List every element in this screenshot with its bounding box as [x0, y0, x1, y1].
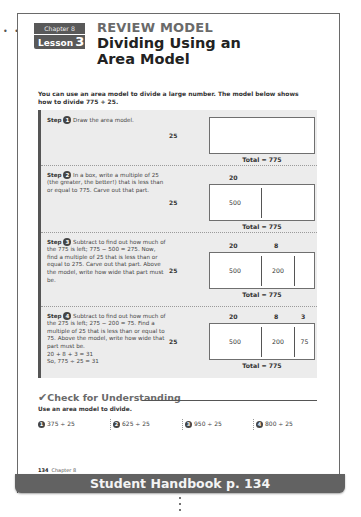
- step-1-text: Step 1 Draw the area model.: [47, 116, 167, 124]
- area-rectangle: 500 200: [209, 252, 315, 289]
- check-title-text: Check for Understanding: [47, 392, 180, 403]
- area-cell: 200: [262, 253, 294, 288]
- width-label: 3: [301, 313, 305, 320]
- step-label: Step: [47, 172, 62, 178]
- area-cell: 500: [210, 185, 260, 220]
- page-title: Dividing Using an Area Model: [97, 35, 277, 67]
- area-cell: 200: [262, 324, 294, 359]
- problem-4: 4800 ÷ 25: [256, 420, 293, 428]
- step-3-text: Step 3 Subtract to find out how much of …: [47, 238, 167, 284]
- width-label: 20: [229, 174, 238, 181]
- area-cell: 75: [295, 324, 314, 359]
- check-for-understanding-heading: ✔Check for Understanding: [38, 391, 181, 404]
- problem-number-circle: 3: [185, 421, 192, 428]
- step-3: Step 3 Subtract to find out how much of …: [41, 232, 317, 307]
- width-label: 20: [229, 242, 238, 249]
- footer-chapter: Chapter 8: [51, 467, 76, 473]
- checkmark-icon: ✔: [38, 391, 47, 404]
- intro-text: You can use an area model to divide a la…: [38, 90, 308, 106]
- area-rectangle: 500: [209, 184, 315, 221]
- step-equation: 20 + 8 + 3 = 31: [47, 351, 93, 357]
- separator: [253, 419, 254, 430]
- step-number-circle: 4: [63, 312, 71, 320]
- chapter-label: Chapter 8: [34, 23, 85, 34]
- partition-line: [294, 256, 295, 286]
- step-4-text: Step 4 Subtract to find out how much of …: [47, 312, 167, 366]
- area-rectangle: [209, 117, 315, 154]
- problem-1: 1375 ÷ 25: [38, 420, 75, 428]
- side-length-label: 25: [169, 132, 177, 139]
- continuation-dots: [179, 497, 183, 515]
- area-cell: 500: [210, 253, 260, 288]
- total-label: Total = 775: [209, 223, 315, 230]
- width-label: 8: [274, 242, 278, 249]
- side-length-label: 25: [169, 267, 177, 274]
- step-label: Step: [47, 239, 62, 245]
- review-model-kicker: REVIEW MODEL: [97, 20, 213, 35]
- lesson-number: 3: [75, 34, 84, 49]
- area-cell: 500: [210, 324, 260, 359]
- problem-number-circle: 4: [256, 421, 263, 428]
- page-number: 134: [38, 467, 48, 473]
- practice-problems: 1375 ÷ 25 2625 ÷ 25 3950 ÷ 25 4800 ÷ 25: [38, 420, 318, 432]
- heading-rule: [142, 400, 317, 401]
- problem-2: 2625 ÷ 25: [113, 420, 150, 428]
- problem-3: 3950 ÷ 25: [185, 420, 222, 428]
- problem-number-circle: 2: [113, 421, 120, 428]
- step-label: Step: [47, 313, 62, 319]
- total-label: Total = 775: [209, 156, 315, 163]
- student-handbook-banner: Student Handbook p. 134: [15, 474, 345, 493]
- lesson-label: Lesson3: [34, 35, 85, 49]
- partition-line: [261, 188, 262, 218]
- step-2-text: Step 2 In a box, write a multiple of 25 …: [47, 171, 167, 194]
- side-length-label: 25: [169, 199, 177, 206]
- step-4: Step 4 Subtract to find out how much of …: [41, 306, 317, 378]
- step-instruction: Draw the area model.: [73, 117, 134, 123]
- step-1: Step 1 Draw the area model. 25 Total = 7…: [41, 110, 317, 166]
- step-2: Step 2 In a box, write a multiple of 25 …: [41, 165, 317, 233]
- problem-text: 375 ÷ 25: [47, 420, 75, 427]
- separator: [182, 419, 183, 430]
- steps-panel: Step 1 Draw the area model. 25 Total = 7…: [38, 110, 317, 378]
- page-footer: 134Chapter 8: [38, 467, 76, 473]
- step-label: Step: [47, 117, 62, 123]
- problem-text: 800 ÷ 25: [265, 420, 293, 427]
- check-instruction: Use an area model to divide.: [38, 406, 132, 412]
- width-label: 20: [229, 313, 238, 320]
- step-number-circle: 2: [63, 171, 71, 179]
- lesson-word: Lesson: [38, 38, 73, 48]
- problem-text: 950 ÷ 25: [194, 420, 222, 427]
- chapter-lesson-badge: Chapter 8 Lesson3: [34, 23, 85, 49]
- step-answer: So, 775 ÷ 25 = 31: [47, 358, 99, 364]
- problem-number-circle: 1: [38, 421, 45, 428]
- separator: [110, 419, 111, 430]
- total-label: Total = 775: [209, 291, 315, 298]
- problem-text: 625 ÷ 25: [122, 420, 150, 427]
- width-label: 8: [274, 313, 278, 320]
- side-length-label: 25: [169, 338, 177, 345]
- total-label: Total = 775: [209, 362, 315, 369]
- area-rectangle: 500 200 75: [209, 323, 315, 360]
- step-number-circle: 3: [63, 238, 71, 246]
- step-number-circle: 1: [63, 116, 71, 124]
